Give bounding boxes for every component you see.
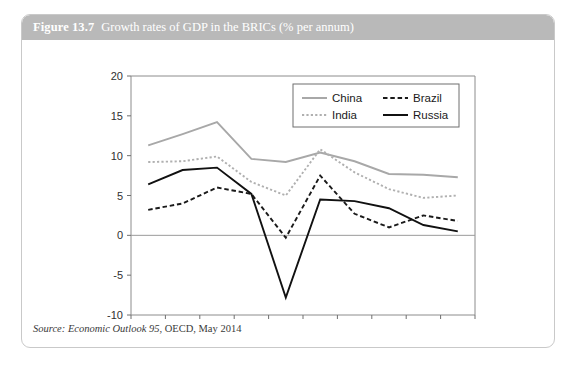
figure-header-bar: Figure 13.7 Growth rates of GDP in the B… <box>22 15 554 40</box>
y-axis-tick-label: 20 <box>111 70 123 82</box>
legend-label-brazil: Brazil <box>413 92 442 104</box>
series-line-russia <box>148 168 458 298</box>
x-axis-tick-label: 2008 <box>239 322 263 323</box>
source-label: Source: <box>33 323 65 334</box>
chart-plot-area: 20151050-5-10200520062007200820092010201… <box>22 40 554 323</box>
figure-source-note: Source: Economic Outlook 95, OECD, May 2… <box>33 323 241 334</box>
y-axis-tick-label: -10 <box>107 309 123 321</box>
legend-label-india: India <box>332 109 358 121</box>
source-publication: Economic Outlook 95 <box>68 323 160 334</box>
x-axis-tick-label: 2009 <box>274 322 298 323</box>
y-axis-tick-label: -5 <box>113 269 123 281</box>
y-axis-tick-label: 0 <box>117 229 123 241</box>
source-rest: , OECD, May 2014 <box>159 323 241 334</box>
legend-label-russia: Russia <box>413 109 449 121</box>
x-axis-tick-label: 2012 <box>377 322 401 323</box>
x-axis-tick-label: 2013 <box>411 322 435 323</box>
series-line-brazil <box>148 176 458 238</box>
x-axis-tick-label: 2014 <box>446 322 470 323</box>
figure-container: Figure 13.7 Growth rates of GDP in the B… <box>21 14 555 348</box>
y-axis-tick-label: 5 <box>117 190 123 202</box>
figure-number: Figure 13.7 <box>33 20 94 35</box>
y-axis-tick-label: 10 <box>111 150 123 162</box>
line-chart: 20151050-5-10200520062007200820092010201… <box>22 40 555 323</box>
x-axis-tick-label: 2011 <box>343 322 367 323</box>
legend-label-china: China <box>332 92 363 104</box>
x-axis-tick-label: 2010 <box>308 322 332 323</box>
y-axis-tick-label: 15 <box>111 110 123 122</box>
figure-caption: Growth rates of GDP in the BRICs (% per … <box>101 20 354 35</box>
